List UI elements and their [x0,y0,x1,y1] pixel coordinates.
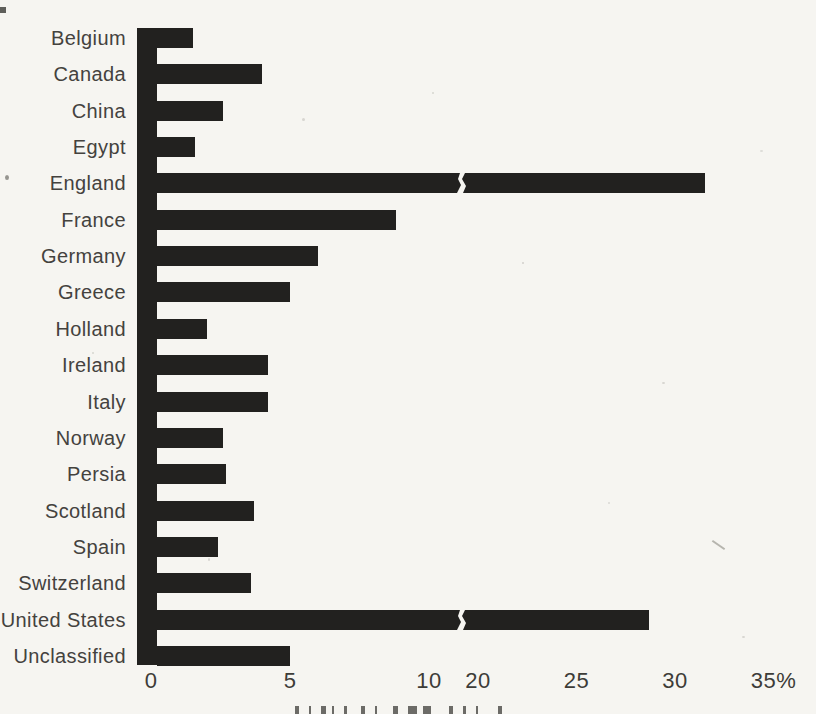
bar-england [157,173,705,193]
bar-italy [157,392,268,412]
category-label-belgium: Belgium [51,26,126,50]
bar-egypt [157,137,195,157]
bar-chart: BelgiumCanadaChinaEgyptEnglandFranceGerm… [0,0,816,714]
cropped-caption-fragment [295,706,555,714]
category-label-germany: Germany [41,244,126,268]
bar-spain [157,537,218,557]
category-label-france: France [61,208,126,232]
axis-break-icon [455,173,469,193]
scan-speck [760,150,763,152]
category-label-holland: Holland [55,317,126,341]
bar-china [157,101,223,121]
category-label-unclassified: Unclassified [13,644,126,668]
bar-france [157,210,396,230]
category-label-canada: Canada [54,62,126,86]
scan-speck [92,352,94,354]
category-label-norway: Norway [56,426,126,450]
bar-belgium [157,28,193,48]
x-tick-25: 25 [564,668,589,694]
bar-scotland [157,501,254,521]
bar-holland [157,319,207,339]
scan-edge-mark [0,7,6,13]
x-tick-30: 30 [662,668,687,694]
scan-speck [742,636,745,638]
scanned-chart-page: BelgiumCanadaChinaEgyptEnglandFranceGerm… [0,0,816,714]
scan-speck [432,92,434,94]
category-label-spain: Spain [73,535,126,559]
scan-speck [302,118,305,121]
y-axis-line [137,28,157,665]
category-label-united-states: United States [1,608,126,632]
category-label-switzerland: Switzerland [18,571,126,595]
scan-speck [662,382,665,384]
category-label-england: England [50,171,126,195]
x-tick-10: 10 [416,668,441,694]
x-tick-0: 0 [145,668,158,694]
scan-ink-dot [5,175,9,180]
x-tick-5: 5 [284,668,297,694]
bar-persia [157,464,226,484]
bar-germany [157,246,318,266]
category-label-china: China [72,99,126,123]
x-tick-20: 20 [465,668,490,694]
bar-canada [157,64,262,84]
bar-norway [157,428,223,448]
scan-speck [608,502,610,504]
category-label-persia: Persia [67,462,126,486]
bar-switzerland [157,573,251,593]
scan-speck [208,558,210,561]
x-tick-35pct: 35% [751,668,797,694]
category-label-italy: Italy [87,390,126,414]
category-label-greece: Greece [58,280,126,304]
category-label-egypt: Egypt [73,135,126,159]
bar-greece [157,282,290,302]
axis-break-icon [455,610,469,630]
category-label-scotland: Scotland [45,499,126,523]
bar-ireland [157,355,268,375]
scan-speck [522,262,524,264]
bar-unclassified [157,646,290,666]
bar-united-states [157,610,649,630]
category-label-ireland: Ireland [62,353,126,377]
